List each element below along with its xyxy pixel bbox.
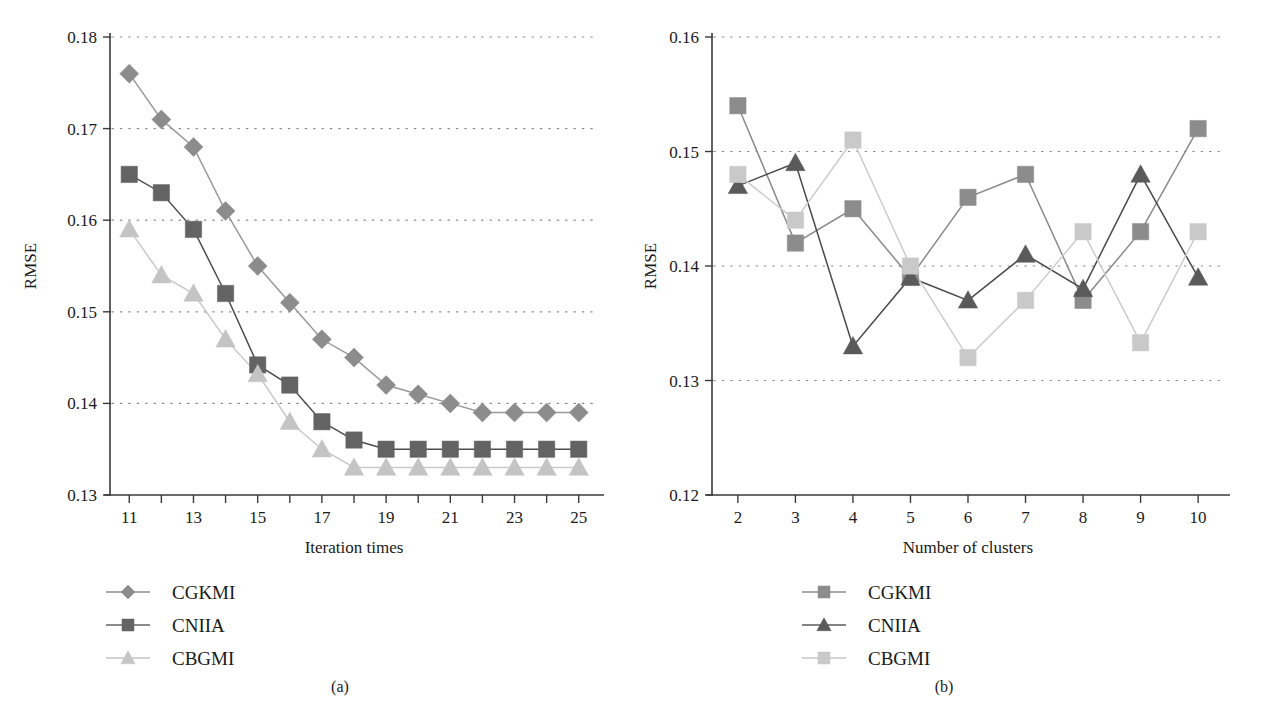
data-point-CBGMI-12 [152,265,171,282]
data-point-CGKMI-2 [730,98,746,114]
data-point-CBGMI-21 [441,458,460,475]
x-tick-label-2: 13 [185,508,202,527]
data-point-CBGMI-25 [569,458,588,475]
axes [104,33,604,495]
data-point-CBGMI-16 [280,412,299,429]
y-tick-label-5: 0.18 [67,28,97,47]
data-point-CGKMI-10 [1190,120,1206,136]
data-point-CGKMI-23 [505,403,524,422]
data-point-CNIIA-14 [217,285,233,301]
data-point-CBGMI-18 [344,458,363,475]
x-tick-label-0: 2 [734,508,743,527]
y-ticks: 0.130.140.150.160.170.18 [67,28,111,505]
x-tick-label-7: 9 [1136,508,1145,527]
data-point-CNIIA-20 [410,441,426,457]
data-point-CNIIA-6 [958,291,977,308]
y-tick-label-0: 0.13 [67,486,97,505]
y-tick-label-4: 0.17 [67,120,97,139]
x-tick-label-8: 19 [378,508,395,527]
legend-marker-CGKMI [121,585,135,599]
data-point-CBGMI-23 [505,458,524,475]
legend-label-CNIIA: CNIIA [172,615,225,636]
panel-caption-a: (a) [331,678,349,696]
data-point-CNIIA-8 [1073,279,1092,296]
legend-label-CGKMI: CGKMI [172,582,235,603]
x-ticks: 2345678910 [734,495,1207,527]
x-tick-label-4: 6 [964,508,973,527]
data-point-CBGMI-8 [1075,223,1091,239]
series-markers-CGKMI [120,64,588,422]
x-axis-title: Number of clusters [903,538,1033,557]
data-point-CBGMI-2 [730,166,746,182]
data-point-CBGMI-5 [902,258,918,274]
data-point-CBGMI-20 [409,458,428,475]
data-point-CNIIA-24 [538,441,554,457]
data-point-CNIIA-17 [314,414,330,430]
data-point-CNIIA-21 [442,441,458,457]
chart-panel-a: 0.130.140.150.160.170.181113151719212325… [0,0,634,726]
data-point-CBGMI-3 [787,212,803,228]
x-tick-label-14: 25 [570,508,587,527]
x-tick-label-6: 8 [1079,508,1088,527]
data-point-CBGMI-13 [184,284,203,301]
data-series [120,64,589,475]
data-point-CGKMI-24 [537,403,556,422]
y-tick-label-3: 0.15 [669,143,699,162]
x-tick-label-6: 17 [313,508,331,527]
data-point-CNIIA-22 [474,441,490,457]
x-tick-label-0: 11 [121,508,137,527]
y-tick-label-2: 0.14 [669,257,699,276]
y-tick-label-2: 0.15 [67,303,97,322]
data-point-CGKMI-20 [409,385,428,404]
legend-item-CBGMI: CBGMI [802,648,930,669]
x-tick-label-1: 3 [791,508,800,527]
legend-marker-CBGMI [818,652,830,664]
data-point-CGKMI-14 [216,202,235,221]
data-point-CGKMI-22 [473,403,492,422]
data-point-CNIIA-10 [1188,268,1207,285]
data-point-CGKMI-11 [120,64,139,83]
legend: CGKMICNIIACBGMI [106,582,235,669]
data-point-CNIIA-13 [185,221,201,237]
data-point-CNIIA-16 [282,377,298,393]
y-ticks: 0.120.130.140.150.16 [669,28,713,505]
data-point-CGKMI-6 [960,189,976,205]
data-point-CGKMI-9 [1132,223,1148,239]
legend-item-CNIIA: CNIIA [802,615,921,636]
x-tick-label-2: 4 [849,508,858,527]
data-point-CNIIA-11 [121,166,137,182]
legend-marker-CNIIA [122,619,134,631]
data-point-CBGMI-14 [216,330,235,347]
data-point-CNIIA-12 [153,185,169,201]
x-tick-label-12: 23 [506,508,523,527]
legend-marker-CGKMI [818,586,830,598]
data-point-CGKMI-4 [845,201,861,217]
data-point-CBGMI-19 [376,458,395,475]
legend-label-CNIIA: CNIIA [868,615,921,636]
chart-panel-b: 0.120.130.140.150.162345678910Number of … [634,0,1268,726]
legend-item-CGKMI: CGKMI [802,582,931,603]
legend-item-CNIIA: CNIIA [106,615,225,636]
data-point-CNIIA-25 [571,441,587,457]
x-tick-label-5: 7 [1021,508,1030,527]
data-point-CBGMI-9 [1132,335,1148,351]
data-point-CBGMI-10 [1190,223,1206,239]
data-point-CGKMI-3 [787,235,803,251]
data-point-CNIIA-3 [786,153,805,170]
data-series [728,98,1208,366]
series-markers-CGKMI [730,98,1207,309]
data-point-CNIIA-7 [1016,245,1035,262]
series-line-CBGMI [738,140,1198,358]
data-point-CGKMI-25 [569,403,588,422]
y-tick-label-4: 0.16 [669,28,699,47]
x-tick-label-8: 10 [1190,508,1207,527]
y-tick-label-1: 0.14 [67,394,97,413]
data-point-CNIIA-9 [1131,165,1150,182]
figure-container: 0.130.140.150.160.170.181113151719212325… [0,0,1268,726]
data-point-CNIIA-18 [346,432,362,448]
data-point-CGKMI-7 [1017,166,1033,182]
y-tick-label-0: 0.12 [669,486,699,505]
data-point-CBGMI-4 [845,132,861,148]
y-tick-label-3: 0.16 [67,211,97,230]
y-axis-title: RMSE [21,243,40,289]
